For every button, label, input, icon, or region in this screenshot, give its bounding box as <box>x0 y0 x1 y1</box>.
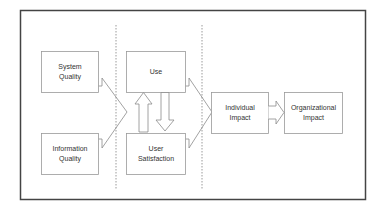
label-line: Impact <box>229 113 250 123</box>
label-use: Use <box>126 51 186 93</box>
label-line: Satisfaction <box>138 154 174 164</box>
label-line: User <box>149 144 164 154</box>
label-system-quality: System Quality <box>41 51 99 93</box>
label-line: Quality <box>59 72 81 82</box>
label-line: Organizational <box>291 103 336 113</box>
label-line: Individual <box>225 103 255 113</box>
delone-mclean-model-diagram: System Quality Information Quality Use U… <box>0 0 382 208</box>
label-user-satisfaction: User Satisfaction <box>126 133 186 175</box>
label-information-quality: Information Quality <box>41 133 99 175</box>
label-line: System <box>58 62 81 72</box>
label-line: Quality <box>59 154 81 164</box>
label-line: Information <box>52 144 87 154</box>
label-line: Use <box>150 67 162 77</box>
label-line: Impact <box>303 113 324 123</box>
label-organizational-impact: Organizational Impact <box>284 92 343 134</box>
label-individual-impact: Individual Impact <box>211 92 269 134</box>
